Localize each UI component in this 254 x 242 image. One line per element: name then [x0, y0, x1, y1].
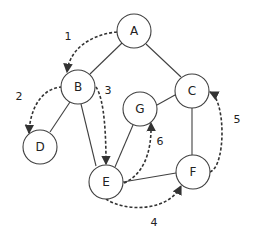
edge-b-d: [50, 102, 70, 132]
traversal-arrow-2: [29, 87, 62, 133]
node-a-label: A: [130, 24, 139, 38]
nodes: A B C G D E F: [23, 14, 210, 199]
step-label-6: 6: [157, 135, 164, 148]
traversal-arrow-3: [96, 87, 106, 164]
node-c-label: C: [188, 84, 196, 98]
graph-diagram: 1 2 3 4 5 6 A B C G D E: [0, 0, 254, 242]
step-label-5: 5: [234, 113, 241, 126]
node-e-label: E: [102, 175, 110, 189]
step-labels: 1 2 3 4 5 6: [16, 30, 241, 229]
edge-g-e: [115, 125, 133, 167]
edge-c-g: [157, 95, 175, 105]
node-g-label: G: [135, 102, 144, 116]
node-f[interactable]: F: [176, 155, 210, 189]
step-label-3: 3: [105, 84, 112, 97]
edges: [50, 43, 192, 182]
edge-b-e: [81, 104, 96, 166]
node-b[interactable]: B: [61, 70, 95, 104]
step-label-1: 1: [65, 30, 72, 43]
traversal-arrow-5: [210, 92, 222, 172]
edge-e-f: [123, 173, 176, 182]
traversal-arrow-6: [124, 123, 151, 183]
node-e[interactable]: E: [89, 165, 123, 199]
edge-a-b: [90, 43, 122, 74]
step-label-2: 2: [16, 90, 23, 103]
node-d[interactable]: D: [23, 130, 57, 164]
node-c[interactable]: C: [175, 74, 209, 108]
node-f-label: F: [190, 165, 197, 179]
node-a[interactable]: A: [117, 14, 151, 48]
node-b-label: B: [74, 80, 82, 94]
step-label-4: 4: [151, 216, 158, 229]
traversal-arrow-1: [67, 32, 117, 72]
node-d-label: D: [35, 140, 44, 154]
edge-a-c: [146, 44, 181, 77]
node-g[interactable]: G: [123, 92, 157, 126]
